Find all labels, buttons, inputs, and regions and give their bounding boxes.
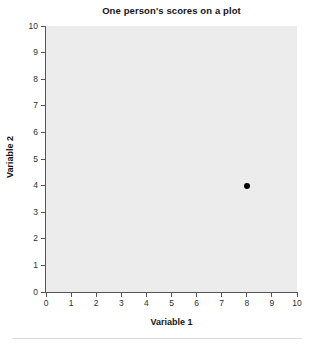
x-axis-tick <box>246 293 247 297</box>
footer-divider <box>12 338 302 339</box>
y-axis-tick <box>41 132 45 133</box>
x-axis-tick <box>271 293 272 297</box>
x-axis-tick-label: 9 <box>260 299 284 308</box>
y-axis-tick-label: 2 <box>2 234 38 243</box>
x-axis-tick-label: 1 <box>59 299 83 308</box>
y-axis-tick <box>41 105 45 106</box>
y-axis-tick <box>41 52 45 53</box>
chart-title: One person's scores on a plot <box>46 5 297 16</box>
y-axis-tick <box>41 159 45 160</box>
y-axis-tick <box>41 212 45 213</box>
y-axis-tick <box>41 292 45 293</box>
chart-figure: One person's scores on a plot 0123456789… <box>0 0 316 346</box>
x-axis-tick-label: 0 <box>34 299 58 308</box>
x-axis-tick-label: 2 <box>84 299 108 308</box>
x-axis-tick-label: 6 <box>185 299 209 308</box>
y-axis-tick <box>41 238 45 239</box>
y-axis-tick <box>41 265 45 266</box>
data-point <box>244 183 250 189</box>
x-axis-tick <box>46 293 47 297</box>
y-axis-tick-label: 8 <box>2 75 38 84</box>
plot-area <box>46 26 297 292</box>
x-axis-tick <box>221 293 222 297</box>
x-axis-tick <box>171 293 172 297</box>
x-axis-tick-label: 8 <box>235 299 259 308</box>
x-axis-tick-label: 5 <box>160 299 184 308</box>
y-axis-tick-label: 9 <box>2 48 38 57</box>
x-axis-tick <box>297 293 298 297</box>
x-axis-tick-label: 7 <box>210 299 234 308</box>
y-axis-tick-label: 1 <box>2 261 38 270</box>
x-axis-tick <box>96 293 97 297</box>
x-axis-tick <box>71 293 72 297</box>
y-axis-tick <box>41 79 45 80</box>
y-axis-tick-label: 10 <box>2 22 38 31</box>
y-axis-tick <box>41 185 45 186</box>
x-axis-label: Variable 1 <box>46 317 297 327</box>
x-axis-tick-label: 4 <box>134 299 158 308</box>
x-axis-tick <box>196 293 197 297</box>
y-axis-label: Variable 2 <box>5 97 15 217</box>
x-axis-tick <box>146 293 147 297</box>
x-axis-tick <box>121 293 122 297</box>
x-axis-tick-label: 10 <box>285 299 309 308</box>
y-axis-tick <box>41 26 45 27</box>
y-axis-tick-label: 0 <box>2 288 38 297</box>
y-axis-line <box>45 26 46 293</box>
x-axis-tick-label: 3 <box>109 299 133 308</box>
